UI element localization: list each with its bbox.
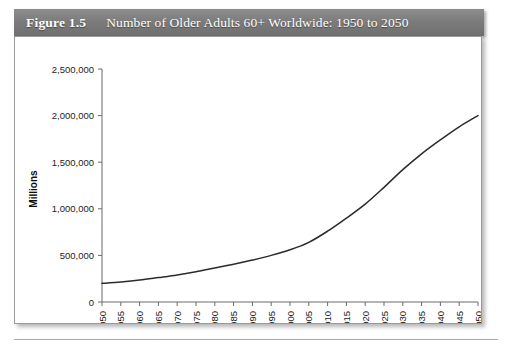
x-axis: 1950195519601965197019751980198519901995… <box>97 302 483 324</box>
x-tick-label: 2010 <box>322 311 333 324</box>
x-tick-label: 2035 <box>416 311 427 324</box>
x-tick-label: 1950 <box>97 311 108 324</box>
bottom-divider <box>14 339 498 340</box>
x-tick-label: 2045 <box>454 311 465 324</box>
x-tick-label: 1965 <box>153 311 164 324</box>
figure-title-bar: Figure 1.5 Number of Older Adults 60+ Wo… <box>14 9 484 36</box>
x-tick-label: 2000 <box>285 311 296 324</box>
x-tick-label: 2020 <box>360 311 371 324</box>
y-tick-label: 2,500,000 <box>52 64 94 75</box>
x-tick-label: 1955 <box>115 311 126 324</box>
x-tick-label: 1985 <box>228 311 239 324</box>
y-tick-label: 1,000,000 <box>52 203 94 214</box>
x-tick-label: 1995 <box>266 311 277 324</box>
y-tick-group: 0500,0001,000,0001,500,0002,000,0002,500… <box>52 64 102 308</box>
x-tick-label: 1975 <box>191 311 202 324</box>
x-tick-label: 1980 <box>209 311 220 324</box>
x-tick-label: 2030 <box>397 311 408 324</box>
x-tick-label: 2040 <box>435 311 446 324</box>
x-tick-label: 2025 <box>379 311 390 324</box>
x-tick-label: 2015 <box>341 311 352 324</box>
y-tick-label: 1,500,000 <box>52 157 94 168</box>
y-tick-label: 2,000,000 <box>52 110 94 121</box>
figure-container: Figure 1.5 Number of Older Adults 60+ Wo… <box>14 9 484 327</box>
x-tick-label: 2005 <box>303 311 314 324</box>
figure-title-text: Number of Older Adults 60+ Worldwide: 19… <box>106 15 408 31</box>
x-tick-label: 1970 <box>172 311 183 324</box>
data-series-line <box>102 116 478 284</box>
figure-number-label: Figure 1.5 <box>26 15 86 31</box>
y-axis-title: Millions <box>28 170 39 208</box>
x-tick-group: 1950195519601965197019751980198519901995… <box>97 302 483 324</box>
x-tick-label: 2050 <box>473 311 483 324</box>
line-chart: 0500,0001,000,0001,500,0002,000,0002,500… <box>15 37 482 324</box>
x-tick-label: 1960 <box>134 311 145 324</box>
x-tick-label: 1990 <box>247 311 258 324</box>
y-tick-label: 0 <box>89 297 94 308</box>
chart-panel: 0500,0001,000,0001,500,0002,000,0002,500… <box>14 36 482 324</box>
y-axis: 0500,0001,000,0001,500,0002,000,0002,500… <box>28 64 102 308</box>
y-tick-label: 500,000 <box>60 250 94 261</box>
